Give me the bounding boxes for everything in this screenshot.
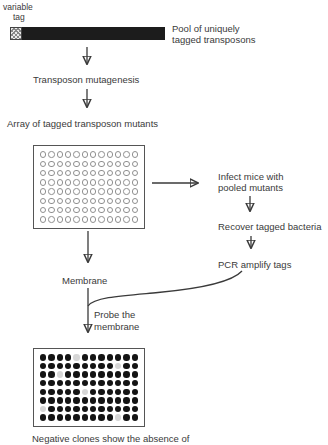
well-r7c6 — [82, 207, 89, 214]
well-r1c5 — [73, 151, 80, 158]
well-r8c10 — [115, 216, 122, 223]
well-r5c1 — [40, 389, 47, 396]
well-r8c6 — [82, 414, 89, 421]
well-r1c12 — [132, 354, 139, 361]
well-r1c9 — [107, 354, 114, 361]
well-r7c5 — [73, 406, 80, 413]
well-r4c7 — [90, 380, 97, 387]
well-r8c3 — [57, 414, 64, 421]
well-r6c2 — [48, 397, 55, 404]
well-r4c7 — [90, 179, 97, 186]
well-r5c12 — [132, 389, 139, 396]
well-r7c3 — [57, 406, 64, 413]
well-r1c11 — [123, 151, 130, 158]
well-r7c1 — [40, 406, 47, 413]
well-r6c8 — [98, 198, 105, 205]
well-r7c8 — [98, 406, 105, 413]
well-r8c3 — [57, 216, 64, 223]
well-r7c8 — [98, 207, 105, 214]
well-r3c10 — [115, 371, 122, 378]
well-r8c7 — [90, 216, 97, 223]
membrane-label: Membrane — [62, 275, 107, 286]
well-r5c2 — [48, 188, 55, 195]
well-r2c8 — [98, 363, 105, 370]
well-r4c5 — [73, 179, 80, 186]
well-r6c10 — [115, 397, 122, 404]
diagram-canvas: variable tag Pool of uniquely tagged tra… — [0, 0, 328, 445]
well-r4c10 — [115, 179, 122, 186]
well-r5c2 — [48, 389, 55, 396]
well-r5c3 — [57, 188, 64, 195]
well-r5c4 — [65, 389, 72, 396]
well-r7c4 — [65, 406, 72, 413]
well-r4c3 — [57, 380, 64, 387]
transposon-bar-body — [22, 27, 165, 40]
well-r2c5 — [73, 363, 80, 370]
well-r2c1 — [40, 363, 47, 370]
well-r8c12 — [132, 216, 139, 223]
well-r3c10 — [115, 170, 122, 177]
transposon-bar — [10, 27, 165, 40]
well-r3c1 — [40, 371, 47, 378]
well-r4c4 — [65, 179, 72, 186]
well-r8c5 — [73, 414, 80, 421]
well-r6c6 — [82, 397, 89, 404]
well-r1c4 — [65, 354, 72, 361]
well-r1c1 — [40, 151, 47, 158]
well-r2c9 — [107, 161, 114, 168]
well-r5c10 — [115, 389, 122, 396]
well-r5c4 — [65, 188, 72, 195]
well-r3c7 — [90, 371, 97, 378]
well-r8c8 — [98, 216, 105, 223]
well-r6c10 — [115, 198, 122, 205]
well-r7c2 — [48, 207, 55, 214]
well-r5c7 — [90, 188, 97, 195]
well-r8c1 — [40, 216, 47, 223]
well-r6c1 — [40, 397, 47, 404]
well-r8c1 — [40, 414, 47, 421]
well-r2c11 — [123, 161, 130, 168]
curve-pcr-to-membrane-icon — [88, 271, 242, 306]
well-r1c4 — [65, 151, 72, 158]
well-r6c11 — [123, 397, 130, 404]
well-r2c12 — [132, 161, 139, 168]
well-r6c8 — [98, 397, 105, 404]
pool-label-line1: Pool of uniquely — [172, 23, 240, 34]
well-r1c11 — [123, 354, 130, 361]
well-r4c11 — [123, 380, 130, 387]
well-r6c7 — [90, 397, 97, 404]
well-r8c2 — [48, 414, 55, 421]
well-r4c5 — [73, 380, 80, 387]
well-r5c6 — [82, 188, 89, 195]
well-r6c1 — [40, 198, 47, 205]
recover-label: Recover tagged bacteria — [218, 221, 322, 232]
array-caption: Array of tagged transposon mutants — [7, 118, 158, 129]
pcr-label: PCR amplify tags — [218, 259, 291, 270]
well-r4c1 — [40, 179, 47, 186]
well-r3c4 — [65, 170, 72, 177]
well-r1c2 — [48, 354, 55, 361]
well-r2c10 — [115, 161, 122, 168]
well-r1c3 — [57, 151, 64, 158]
well-r4c9 — [107, 179, 114, 186]
well-r6c3 — [57, 397, 64, 404]
well-r2c7 — [90, 363, 97, 370]
probe-label-line2: membrane — [94, 321, 139, 332]
well-r3c12 — [132, 371, 139, 378]
well-r3c12 — [132, 170, 139, 177]
well-r8c8 — [98, 414, 105, 421]
well-r4c8 — [98, 380, 105, 387]
well-r1c6 — [82, 151, 89, 158]
well-r5c8 — [98, 188, 105, 195]
probe-label-line1: Probe the — [94, 309, 135, 320]
well-r3c3 — [57, 371, 64, 378]
well-r7c3 — [57, 207, 64, 214]
well-r7c10 — [115, 406, 122, 413]
well-r3c9 — [107, 371, 114, 378]
well-r5c9 — [107, 188, 114, 195]
well-r6c9 — [107, 198, 114, 205]
well-r7c7 — [90, 406, 97, 413]
well-r2c2 — [48, 161, 55, 168]
transposon-mutagenesis-label: Transposon mutagenesis — [33, 74, 139, 85]
well-r1c9 — [107, 151, 114, 158]
